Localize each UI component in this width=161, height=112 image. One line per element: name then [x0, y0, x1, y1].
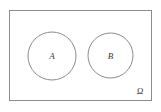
- universe-set-rectangle: [10, 11, 152, 101]
- venn-diagram-canvas: A B Ω: [0, 0, 161, 112]
- set-a-label: A: [48, 51, 55, 61]
- set-b-label: B: [108, 51, 114, 61]
- venn-diagram-figure: A B Ω: [0, 0, 161, 112]
- universe-set-label: Ω: [137, 86, 144, 96]
